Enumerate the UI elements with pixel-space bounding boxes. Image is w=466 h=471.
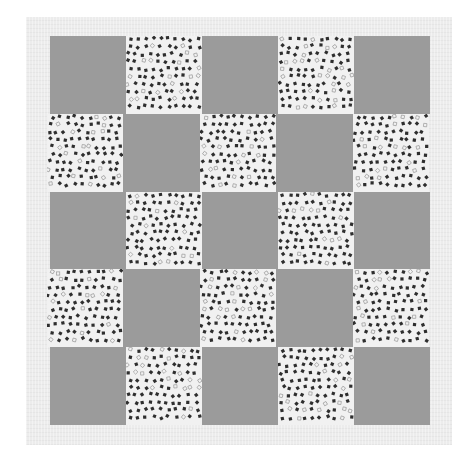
quilt-photo bbox=[0, 0, 466, 471]
quilt-row bbox=[47, 114, 429, 192]
printed-square bbox=[353, 114, 429, 192]
printed-square bbox=[47, 269, 123, 347]
printed-square bbox=[353, 269, 429, 347]
solid-gray-square bbox=[276, 114, 352, 192]
solid-gray-square bbox=[276, 269, 352, 347]
solid-gray-square bbox=[202, 192, 278, 270]
quilt bbox=[50, 36, 430, 425]
printed-square bbox=[278, 192, 354, 270]
solid-gray-square bbox=[354, 36, 430, 114]
solid-gray-square bbox=[50, 36, 126, 114]
solid-gray-square bbox=[123, 269, 199, 347]
printed-square bbox=[126, 347, 202, 425]
solid-gray-square bbox=[354, 192, 430, 270]
printed-square bbox=[200, 269, 276, 347]
solid-gray-square bbox=[123, 114, 199, 192]
printed-square bbox=[200, 114, 276, 192]
quilt-row bbox=[47, 269, 429, 347]
printed-square bbox=[278, 36, 354, 114]
solid-gray-square bbox=[354, 347, 430, 425]
solid-gray-square bbox=[202, 36, 278, 114]
solid-gray-square bbox=[50, 347, 126, 425]
printed-square bbox=[278, 347, 354, 425]
quilt-row bbox=[50, 192, 430, 270]
quilt-row bbox=[50, 347, 430, 425]
quilt-row bbox=[50, 36, 430, 114]
printed-square bbox=[126, 192, 202, 270]
solid-gray-square bbox=[50, 192, 126, 270]
printed-square bbox=[126, 36, 202, 114]
printed-square bbox=[47, 114, 123, 192]
solid-gray-square bbox=[202, 347, 278, 425]
